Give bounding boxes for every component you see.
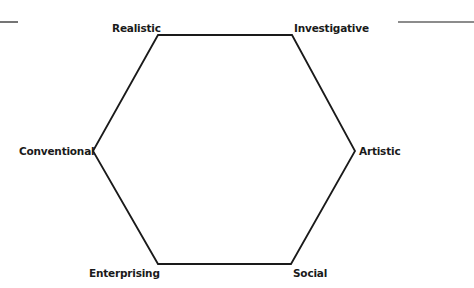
label-conventional: Conventional	[19, 145, 94, 157]
hexagon-diagram	[0, 0, 474, 288]
hexagon-outline	[93, 35, 355, 264]
label-enterprising: Enterprising	[89, 267, 160, 279]
label-realistic: Realistic	[112, 22, 161, 34]
label-social: Social	[293, 267, 327, 279]
label-artistic: Artistic	[359, 145, 400, 157]
label-investigative: Investigative	[294, 22, 369, 34]
